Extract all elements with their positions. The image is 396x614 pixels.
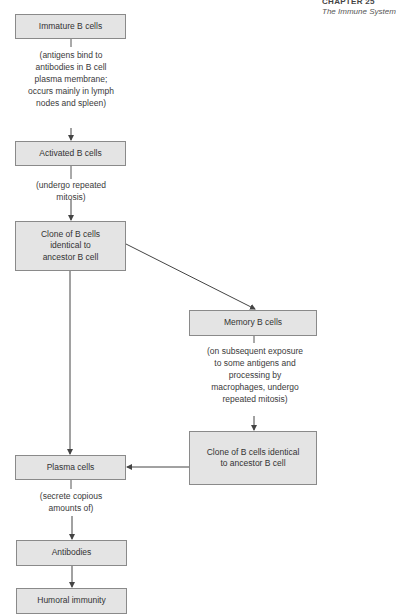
node-label: Clone of B cells identical to ancestor B… [202,447,304,470]
edge-label-text: (antigens bind to antibodies in B cell p… [28,50,114,108]
node-activated-b-cells: Activated B cells [15,141,126,166]
node-antibodies: Antibodies [16,540,127,566]
edge-label-text: (on subsequent exposure to some antigens… [207,346,303,404]
edge-label-subsequent-exposure: (on subsequent exposure to some antigens… [203,345,307,405]
edge-label-text: (undergo repeated mitosis) [36,180,106,202]
edge-label-mitosis: (undergo repeated mitosis) [30,179,112,203]
node-label: Humoral immunity [37,595,106,607]
node-memory-b-cells: Memory B cells [189,310,317,336]
node-label: Memory B cells [224,317,282,329]
node-clone-memory: Clone of B cells identical to ancestor B… [189,431,317,485]
node-label: Clone of B cells identical to ancestor B… [34,229,107,264]
node-label: Plasma cells [47,462,95,474]
edge-label-antigen-binding: (antigens bind to antibodies in B cell p… [24,49,118,109]
node-plasma-cells: Plasma cells [15,455,126,480]
node-label: Activated B cells [39,148,101,160]
edge-label-text: (secrete copious amounts of) [40,491,102,513]
node-label: Antibodies [52,547,92,559]
node-humoral-immunity: Humoral immunity [16,588,127,614]
node-immature-b-cells: Immature B cells [15,14,126,39]
edge-label-secrete: (secrete copious amounts of) [30,490,112,514]
node-label: Immature B cells [39,21,102,33]
node-clone-ancestor: Clone of B cells identical to ancestor B… [15,221,126,271]
